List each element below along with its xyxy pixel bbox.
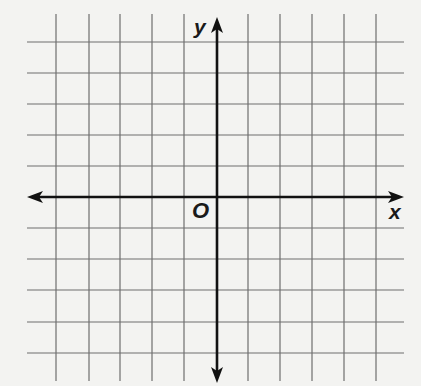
x-axis	[27, 191, 404, 203]
y-axis-label: y	[194, 16, 206, 37]
x-axis-label: x	[389, 201, 401, 222]
coordinate-grid	[0, 0, 421, 386]
y-axis	[211, 17, 223, 383]
coordinate-plane: y x O	[0, 0, 421, 386]
origin-label: O	[192, 200, 209, 222]
